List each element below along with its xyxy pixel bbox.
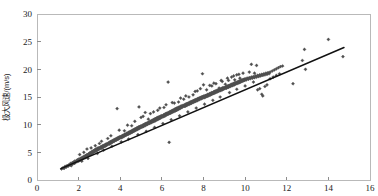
data-point <box>341 55 344 58</box>
data-point <box>235 88 238 91</box>
data-point <box>133 120 136 123</box>
data-point <box>85 147 88 150</box>
scatter-plot: 0246810121416051015202530极大风速/(m/s) <box>0 0 378 196</box>
data-point <box>327 38 330 41</box>
data-point <box>162 106 165 109</box>
y-tick-label: 20 <box>23 65 33 75</box>
data-point <box>203 103 206 106</box>
data-point <box>123 129 126 132</box>
data-point <box>184 94 187 97</box>
data-point <box>156 109 159 112</box>
data-point <box>301 59 304 62</box>
data-point <box>219 95 222 98</box>
data-point <box>291 82 294 85</box>
data-point <box>187 95 190 98</box>
data-point <box>152 110 155 113</box>
data-point <box>109 134 112 137</box>
y-axis-title: 极大风速/(m/s) <box>1 73 11 121</box>
data-point <box>100 140 103 143</box>
data-point <box>118 129 121 132</box>
x-tick-label: 2 <box>76 183 81 193</box>
data-point <box>252 80 255 83</box>
data-point <box>228 91 231 94</box>
x-tick-label: 14 <box>324 183 334 193</box>
y-tick-label: 30 <box>23 9 33 19</box>
data-point <box>78 153 81 156</box>
data-point <box>248 71 251 74</box>
y-tick-label: 0 <box>28 175 33 185</box>
data-point <box>106 137 109 140</box>
data-point <box>144 111 147 114</box>
data-point <box>205 88 208 91</box>
data-point <box>98 142 101 145</box>
data-point <box>250 63 253 66</box>
data-point <box>304 68 307 71</box>
data-point <box>202 83 205 86</box>
data-point <box>158 106 161 109</box>
x-tick-label: 4 <box>118 183 123 193</box>
y-tick-label: 25 <box>23 37 33 47</box>
axis-labels: 0246810121416051015202530极大风速/(m/s) <box>1 9 375 193</box>
x-tick-label: 10 <box>241 183 251 193</box>
data-point <box>130 124 133 127</box>
data-point <box>90 146 93 149</box>
data-point <box>126 124 129 127</box>
data-point <box>137 105 140 108</box>
data-point <box>94 144 97 147</box>
data-point <box>149 112 152 115</box>
fit-line <box>61 47 344 168</box>
data-point <box>244 84 247 87</box>
data-point <box>191 93 194 96</box>
y-tick-label: 5 <box>28 148 33 158</box>
data-point <box>211 99 214 102</box>
x-tick-label: 0 <box>35 183 40 193</box>
data-point <box>179 97 182 100</box>
data-point <box>182 98 185 101</box>
regression-line <box>61 47 344 168</box>
data-point <box>195 106 198 109</box>
chart-figure: 0246810121416051015202530极大风速/(m/s) <box>0 0 378 196</box>
data-point <box>303 48 306 51</box>
x-tick-label: 6 <box>160 183 165 193</box>
data-point <box>255 64 258 67</box>
data-point <box>199 87 202 90</box>
data-point <box>241 72 244 75</box>
x-tick-label: 8 <box>201 183 206 193</box>
data-point <box>164 103 167 106</box>
data-point <box>177 100 180 103</box>
data-point <box>116 107 119 110</box>
x-tick-label: 12 <box>282 183 291 193</box>
data-point <box>168 141 171 144</box>
y-tick-label: 15 <box>23 92 33 102</box>
data-point <box>82 151 85 154</box>
data-point <box>167 80 170 83</box>
data-point <box>201 72 204 75</box>
x-tick-label: 16 <box>366 183 376 193</box>
y-tick-label: 10 <box>23 120 33 130</box>
